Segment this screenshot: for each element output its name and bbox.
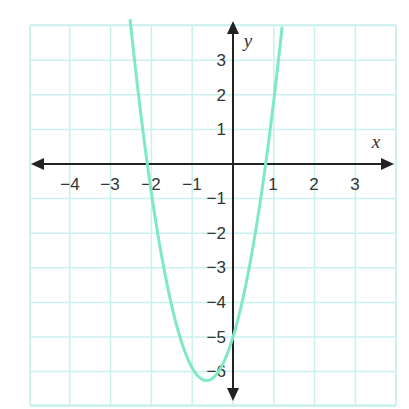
y-axis-top-arrow-icon [227, 21, 239, 34]
x-tick-label: −1 [182, 175, 201, 194]
x-tick-label: −4 [60, 175, 79, 194]
grid [30, 25, 396, 406]
x-tick-label: 1 [268, 175, 277, 194]
y-tick-label: −2 [207, 224, 226, 243]
y-tick-label: −3 [207, 258, 226, 277]
x-tick-label: 3 [350, 175, 359, 194]
y-tick-label: −1 [207, 189, 226, 208]
y-axis-bottom-arrow-icon [227, 388, 239, 401]
y-tick-labels: 3 2 1 −1 −2 −3 −4 −5 −6 [207, 51, 226, 381]
y-tick-label: −4 [207, 293, 226, 312]
y-tick-label: 3 [217, 51, 226, 70]
x-axis-label: x [371, 131, 381, 152]
y-axis-label: y [242, 30, 253, 51]
y-tick-label: 2 [217, 86, 226, 105]
x-tick-label: −3 [100, 175, 119, 194]
x-axis-left-arrow-icon [31, 158, 44, 170]
x-tick-label: 2 [309, 175, 318, 194]
x-axis-right-arrow-icon [381, 158, 394, 170]
y-tick-label: −5 [207, 328, 226, 347]
y-tick-label: 1 [217, 120, 226, 139]
coordinate-plane: −4 −3 −2 −1 1 2 3 3 2 1 −1 −2 −3 −4 −5 −… [0, 0, 409, 409]
